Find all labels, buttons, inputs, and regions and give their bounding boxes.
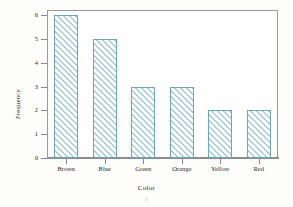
bar-green [131, 87, 155, 159]
y-axis-tick [41, 110, 47, 111]
bar-brown [54, 15, 78, 158]
x-axis-line [47, 157, 279, 159]
y-axis-tick-label: 4 [26, 59, 38, 66]
y-axis-tick-label: 0 [26, 155, 38, 162]
plot-area-frame [47, 10, 278, 158]
x-axis-tick [182, 159, 183, 164]
x-axis-tick [105, 159, 106, 164]
x-axis-tick [259, 159, 260, 164]
chart-page: Frequency 0123456 BrownBlueGreenOrangeYe… [0, 0, 293, 207]
x-axis-tick-label-green: Green [135, 166, 151, 173]
y-axis-tick [41, 39, 47, 40]
bar-blue [93, 39, 117, 158]
x-axis-tick-label-orange: Orange [172, 166, 191, 173]
x-axis-tick-label-blue: Blue [99, 166, 111, 173]
bar-orange [170, 87, 194, 159]
stray-pen-mark: ʅ [0, 195, 293, 203]
y-axis-title: Frequency [14, 88, 21, 118]
y-axis-tick [41, 15, 47, 16]
x-axis-tick [220, 159, 221, 164]
x-axis-tick [143, 159, 144, 164]
bar-red [247, 110, 271, 158]
y-axis-tick-label: 3 [26, 83, 38, 90]
y-axis-tick-label: 2 [26, 107, 38, 114]
x-axis-tick-label-red: Red [254, 166, 264, 173]
y-axis-tick [41, 158, 47, 159]
y-axis-tick-label: 6 [26, 12, 38, 19]
x-axis-tick-label-yellow: Yellow [211, 166, 229, 173]
y-axis-tick [41, 63, 47, 64]
bar-yellow [208, 110, 232, 158]
x-axis-tick-label-brown: Brown [57, 166, 75, 173]
y-axis-tick-label: 5 [26, 36, 38, 43]
y-axis-tick-label: 1 [26, 131, 38, 138]
y-axis-tick [41, 134, 47, 135]
x-axis-tick [66, 159, 67, 164]
x-axis-title: Color [0, 184, 293, 192]
y-axis-tick [41, 87, 47, 88]
